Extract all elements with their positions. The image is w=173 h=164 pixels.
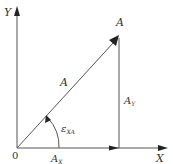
origin-label: 0 — [12, 150, 18, 161]
x-axis-arrow-icon — [158, 145, 168, 151]
vector-diagram: Y X 0 A A AY AX εXA — [0, 0, 173, 164]
x-axis-label: X — [155, 152, 165, 164]
y-axis — [14, 6, 20, 148]
angle-arc — [45, 115, 59, 148]
y-axis-arrow-icon — [14, 6, 20, 16]
angle-label: εXA — [61, 123, 75, 135]
x-axis — [17, 145, 168, 151]
x-component-label: AX — [50, 153, 63, 164]
vector-a-arrow-icon — [109, 35, 119, 46]
x-component-arrow-icon — [109, 146, 119, 151]
y-axis-label: Y — [4, 6, 13, 19]
angle-arrow-icon — [45, 115, 51, 123]
y-component-label: AY — [123, 95, 136, 107]
vector-tip-label: A — [115, 16, 124, 29]
vector-magnitude-label: A — [59, 76, 68, 89]
